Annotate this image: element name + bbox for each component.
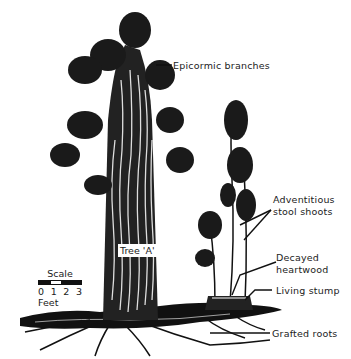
scale-bar bbox=[38, 280, 82, 285]
label-tree-a: Tree 'A' bbox=[118, 244, 157, 257]
scale-legend: Scale 0 1 2 3 Feet bbox=[38, 268, 82, 308]
leader-lines bbox=[156, 65, 276, 333]
label-living-stump: Living stump bbox=[276, 285, 340, 296]
scale-ticks: 0 1 2 3 bbox=[38, 286, 82, 297]
scale-tick: 2 bbox=[63, 286, 69, 297]
living-stump bbox=[205, 296, 253, 310]
label-adventitious-line1: Adventitious bbox=[273, 194, 335, 205]
scale-tick: 3 bbox=[76, 286, 82, 297]
scale-unit: Feet bbox=[38, 297, 82, 308]
scale-tick: 0 bbox=[38, 286, 44, 297]
scale-title: Scale bbox=[38, 268, 82, 279]
label-decayed-line1: Decayed bbox=[276, 252, 319, 263]
scale-tick: 1 bbox=[51, 286, 57, 297]
label-epicormic-branches: Epicormic branches bbox=[173, 60, 270, 71]
label-adventitious-line2: stool shoots bbox=[273, 206, 333, 217]
label-decayed-line2: heartwood bbox=[276, 264, 329, 275]
label-grafted-roots: Grafted roots bbox=[272, 328, 337, 339]
